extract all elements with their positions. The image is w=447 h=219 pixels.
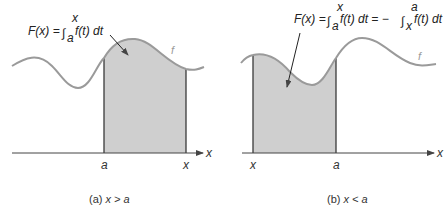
integral-sign-b2: ∫: [400, 14, 405, 28]
panel-b: f x x a F(x) = ∫ x a f(t) dt = − ∫ a x f…: [241, 0, 444, 205]
formula-b: F(x) = ∫ x a f(t) dt = − ∫ a x f(t) dt: [294, 0, 443, 33]
caption-a-prefix: (a): [89, 193, 106, 205]
integral-sign-a: ∫: [61, 26, 66, 40]
svg-text:F(x) =: F(x) =: [28, 24, 60, 38]
tick-label-b-x: x: [249, 158, 257, 172]
formula-a-lower: a: [67, 31, 74, 45]
tick-label-b-a: a: [333, 158, 340, 172]
curve-label-b: f: [418, 50, 422, 62]
shaded-area-a: [104, 39, 186, 153]
diagram-canvas: f x a x F(x) = ∫ x a f(t) dt (a) x > a: [0, 0, 447, 219]
tick-label-a-a: a: [101, 158, 108, 172]
formula-a-integrand: f(t) dt: [75, 24, 104, 38]
shaded-area-b: [253, 54, 336, 153]
formula-a: F(x) = ∫ x a f(t) dt: [28, 11, 104, 45]
formula-a-lhs: F(x) =: [28, 24, 60, 38]
formula-b-lower2: x: [405, 19, 413, 33]
formula-b-lhs: F(x) =: [294, 12, 326, 26]
panel-a: f x a x F(x) = ∫ x a f(t) dt (a) x > a: [12, 11, 213, 205]
axis-label-a: x: [205, 146, 213, 160]
caption-b-condition: x < a: [343, 193, 368, 205]
caption-a-condition: x > a: [105, 193, 130, 205]
caption-a: (a) x > a: [89, 193, 130, 205]
formula-b-integrand2: f(t) dt: [414, 12, 443, 26]
tick-label-a-x: x: [182, 158, 190, 172]
caption-b-prefix: (b): [327, 193, 344, 205]
formula-b-integrand1: f(t) dt = −: [340, 12, 389, 26]
formula-b-lower1: a: [332, 19, 339, 33]
integral-sign-b1: ∫: [326, 14, 331, 28]
formula-a-upper: x: [71, 11, 79, 25]
axis-label-b: x: [436, 146, 444, 160]
caption-b: (b) x < a: [327, 193, 368, 205]
curve-label-a: f: [171, 44, 175, 56]
